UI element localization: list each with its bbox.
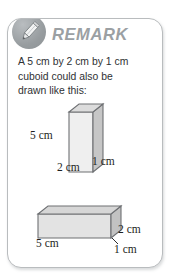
vertical-cuboid-depth-label: 1 cm (92, 155, 115, 167)
vertical-cuboid-height-label: 5 cm (30, 129, 53, 141)
body-line-2: cuboid could also be (18, 70, 158, 85)
horizontal-cuboid-length-label: 5 cm (36, 237, 59, 249)
remark-body-text: A 5 cm by 2 cm by 1 cm cuboid could also… (18, 55, 158, 99)
vertical-cuboid-figure: 5 cm 2 cm 1 cm (8, 99, 163, 191)
pencil-icon (12, 18, 46, 49)
horizontal-cuboid-figure: 5 cm 2 cm 1 cm (8, 191, 163, 268)
horizontal-cuboid-height-label: 2 cm (118, 223, 141, 235)
remark-header: REMARK (8, 19, 163, 59)
body-line-1: A 5 cm by 2 cm by 1 cm (18, 55, 158, 70)
horizontal-cuboid-depth-label: 1 cm (114, 243, 137, 255)
remark-card: REMARK A 5 cm by 2 cm by 1 cm cuboid cou… (7, 18, 163, 268)
vertical-cuboid-width-label: 2 cm (57, 161, 80, 173)
page-title: REMARK (52, 25, 128, 44)
vertical-cuboid-drawing (8, 99, 163, 191)
body-line-3: drawn like this: (18, 84, 158, 99)
